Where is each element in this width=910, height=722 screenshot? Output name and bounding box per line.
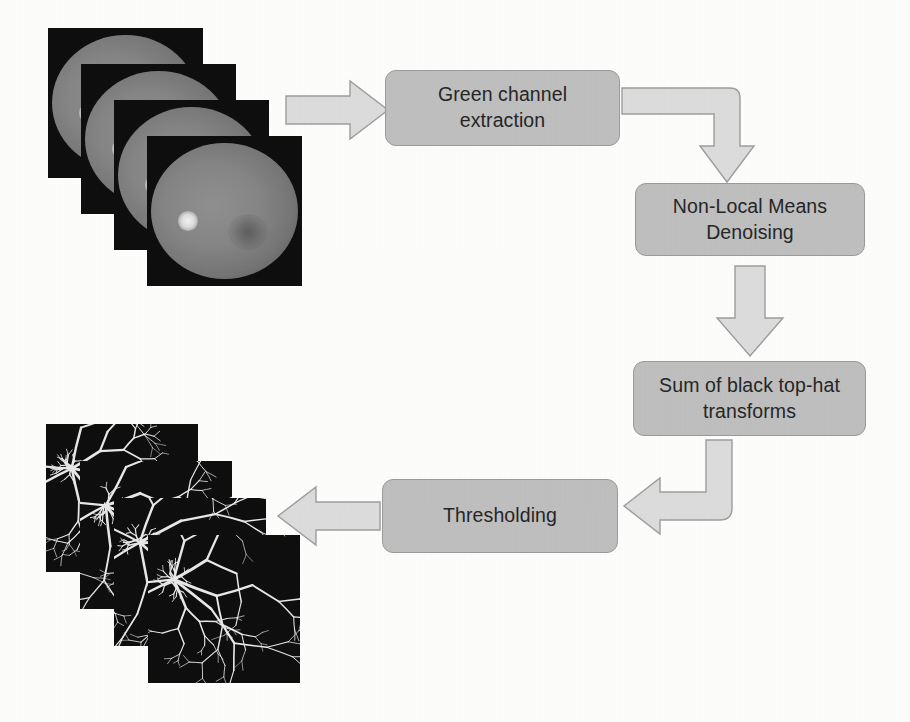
stage-green-channel-extraction[interactable]: Green channel extraction — [385, 70, 620, 146]
stage-thresholding[interactable]: Thresholding — [382, 479, 618, 553]
arrow-denoising-to-top-hat — [714, 266, 786, 358]
stage-non-local-means-denoising[interactable]: Non-Local Means Denoising — [635, 183, 865, 256]
fundus-image-frame — [147, 136, 302, 286]
stage-label: Green channel extraction — [438, 82, 567, 133]
stage-label: Thresholding — [443, 503, 557, 529]
segmented-vessel-tree — [148, 535, 300, 683]
fundus-disc — [151, 143, 298, 280]
stage-label: Non-Local Means Denoising — [673, 194, 827, 245]
output-image-stack — [46, 424, 300, 683]
stage-label: Sum of black top-hat transforms — [659, 373, 840, 424]
arrow-green-channel-to-denoising — [620, 84, 756, 186]
pipeline-diagram: Green channel extraction Non-Local Means… — [0, 0, 910, 722]
optic-disc-highlight — [178, 211, 198, 231]
stage-sum-of-black-top-hat-transforms[interactable]: Sum of black top-hat transforms — [633, 361, 866, 436]
vessel-map-frame — [148, 535, 300, 683]
macula-region — [228, 214, 268, 250]
arrow-top-hat-to-thresholding — [620, 438, 762, 544]
input-image-stack — [48, 28, 302, 286]
